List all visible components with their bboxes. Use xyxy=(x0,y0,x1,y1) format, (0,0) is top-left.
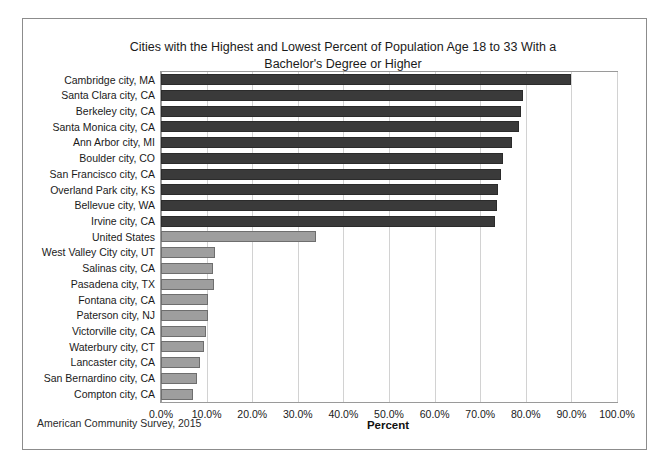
chart-frame: Cities with the Highest and Lowest Perce… xyxy=(22,18,647,450)
category-label: West Valley City city, UT xyxy=(42,245,155,260)
category-label: Santa Monica city, CA xyxy=(52,120,155,135)
category-label: San Bernardino city, CA xyxy=(44,371,155,386)
category-label: Overland Park city, KS xyxy=(50,183,155,198)
bar xyxy=(161,341,204,352)
category-label: United States xyxy=(92,230,155,245)
bar xyxy=(161,106,521,117)
chart-row: Pasadena city, TX xyxy=(161,276,617,292)
bar xyxy=(161,184,498,195)
category-label: Ann Arbor city, MI xyxy=(73,135,155,150)
bar xyxy=(161,200,497,211)
chart-row: Victorville city, CA xyxy=(161,323,617,339)
bar xyxy=(161,153,503,164)
bar xyxy=(161,137,512,148)
category-label: Bellevue city, WA xyxy=(74,198,155,213)
bar xyxy=(161,247,215,258)
bar xyxy=(161,231,316,242)
category-label: Victorville city, CA xyxy=(72,324,155,339)
bar xyxy=(161,279,214,290)
chart-row: Cambridge city, MA xyxy=(161,72,617,88)
chart-row: Compton city, CA xyxy=(161,386,617,402)
chart-row: West Valley City city, UT xyxy=(161,245,617,261)
chart-title: Cities with the Highest and Lowest Perce… xyxy=(83,39,603,73)
chart-row: San Francisco city, CA xyxy=(161,166,617,182)
chart-row: Salinas city, CA xyxy=(161,261,617,277)
chart-row: Ann Arbor city, MI xyxy=(161,135,617,151)
category-label: Cambridge city, MA xyxy=(64,73,155,88)
chart-row: Overland Park city, KS xyxy=(161,182,617,198)
x-axis-title: Percent xyxy=(160,419,616,431)
bar xyxy=(161,121,519,132)
chart-title-line-1: Cities with the Highest and Lowest Perce… xyxy=(130,40,557,54)
category-label: Santa Clara city, CA xyxy=(61,88,155,103)
bar xyxy=(161,373,197,384)
chart-title-line-2: Bachelor's Degree or Higher xyxy=(264,57,421,71)
chart-row: Lancaster city, CA xyxy=(161,355,617,371)
chart-row: United States xyxy=(161,229,617,245)
chart-row: Irvine city, CA xyxy=(161,213,617,229)
chart-row: Fontana city, CA xyxy=(161,292,617,308)
chart-row: Berkeley city, CA xyxy=(161,103,617,119)
category-label: Lancaster city, CA xyxy=(71,355,155,370)
chart-row: Santa Monica city, CA xyxy=(161,119,617,135)
gridline-100.0% xyxy=(617,72,618,402)
category-label: Waterbury city, CT xyxy=(69,340,155,355)
bar xyxy=(161,357,200,368)
bar xyxy=(161,90,523,101)
category-label: Pasadena city, TX xyxy=(71,277,155,292)
category-label: Salinas city, CA xyxy=(82,261,155,276)
bar xyxy=(161,389,193,400)
chart-row: Bellevue city, WA xyxy=(161,198,617,214)
category-label: Irvine city, CA xyxy=(91,214,155,229)
plot-area: Cambridge city, MASanta Clara city, CABe… xyxy=(160,71,618,403)
chart-row: Waterbury city, CT xyxy=(161,339,617,355)
bar xyxy=(161,294,208,305)
bar xyxy=(161,263,213,274)
source-note: American Community Survey, 2015 xyxy=(37,417,201,429)
chart-row: Santa Clara city, CA xyxy=(161,88,617,104)
category-label: Paterson city, NJ xyxy=(76,308,155,323)
category-label: San Francisco city, CA xyxy=(50,167,155,182)
category-label: Berkeley city, CA xyxy=(76,104,155,119)
category-label: Compton city, CA xyxy=(74,387,155,402)
chart-row: Paterson city, NJ xyxy=(161,308,617,324)
bar xyxy=(161,326,206,337)
bar xyxy=(161,74,571,85)
category-label: Fontana city, CA xyxy=(78,293,155,308)
chart-row: Boulder city, CO xyxy=(161,151,617,167)
bar xyxy=(161,310,208,321)
bar xyxy=(161,169,501,180)
bar xyxy=(161,216,495,227)
category-label: Boulder city, CO xyxy=(79,151,155,166)
chart-row: San Bernardino city, CA xyxy=(161,371,617,387)
chart-screenshot: Cities with the Highest and Lowest Perce… xyxy=(0,0,670,469)
